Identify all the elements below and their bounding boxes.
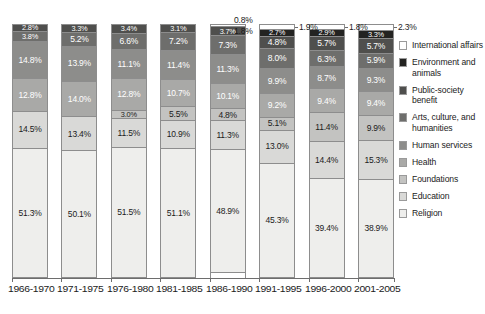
bar-segment[interactable]: 10.7% — [161, 79, 195, 106]
legend-swatch-icon — [399, 141, 407, 150]
bar-segment[interactable]: 48.9% — [211, 149, 245, 273]
legend-item[interactable]: Foundations — [399, 174, 485, 185]
bar-segment[interactable]: 4.8% — [260, 36, 294, 48]
bar-segment[interactable]: 6.3% — [310, 50, 344, 66]
bar-segment[interactable]: 11.3% — [211, 54, 245, 83]
segment-value-label: 10.7% — [167, 89, 190, 98]
legend-item[interactable]: Education — [399, 191, 485, 202]
bar-column[interactable]: 3.3%5.2%13.9%14.0%13.4%50.1% — [61, 24, 97, 278]
bar-segment[interactable]: 8.7% — [310, 66, 344, 88]
segment-value-label: 11.4% — [315, 123, 337, 132]
bar-segment[interactable]: 5.1% — [260, 117, 294, 130]
legend-item[interactable]: Arts, culture, and humanities — [399, 112, 485, 133]
callout-leader-line — [345, 27, 348, 28]
segment-value-label: 9.9% — [367, 124, 386, 133]
bar-segment[interactable]: 9.2% — [260, 93, 294, 116]
segment-value-label: 10.9% — [167, 130, 190, 139]
bar-segment[interactable]: 10.1% — [211, 83, 245, 109]
bar-segment[interactable]: 5.7% — [359, 38, 393, 52]
bar-column[interactable]: 2.8%3.8%14.8%12.8%14.5%51.3% — [12, 24, 48, 278]
bar-segment[interactable]: 14.8% — [13, 41, 47, 79]
bar-segment[interactable]: 38.9% — [359, 179, 393, 278]
bar-segment[interactable]: 3.4% — [112, 24, 146, 33]
bar-segment[interactable]: 7.2% — [161, 32, 195, 50]
bar-column[interactable]: 3.3%5.7%5.9%9.3%9.4%9.9%15.3%38.9% — [358, 24, 394, 278]
bar-column[interactable]: 3.1%7.2%11.4%10.7%5.5%10.9%51.1% — [160, 24, 196, 278]
bar-segment[interactable]: 11.4% — [310, 112, 344, 141]
bar-column[interactable]: 2.9%5.7%6.3%8.7%9.4%11.4%14.4%39.4% — [309, 24, 345, 278]
bar-segment[interactable]: 15.3% — [359, 140, 393, 179]
segment-value-label: 4.8% — [268, 38, 287, 47]
bar-segment[interactable]: 9.9% — [260, 68, 294, 93]
bar-segment[interactable]: 3.8% — [13, 31, 47, 41]
bar-segment[interactable]: 13.4% — [62, 116, 96, 150]
bar-segment[interactable]: 2.8% — [13, 24, 47, 31]
bar-segment[interactable]: 14.5% — [13, 111, 47, 148]
bar-segment[interactable]: 3.0% — [112, 110, 146, 118]
segment-value-label: 51.3% — [18, 209, 41, 218]
bar-segment[interactable]: 2.7% — [260, 29, 294, 36]
segment-value-label: 15.3% — [364, 156, 387, 165]
legend-item[interactable]: Environment and animals — [399, 57, 485, 78]
bar-segment[interactable]: 3.3% — [62, 24, 96, 32]
bar-segment[interactable]: 13.9% — [62, 46, 96, 81]
callout-value-label: 1.8% — [234, 26, 253, 36]
bar-segment[interactable]: 9.4% — [359, 91, 393, 115]
segment-value-label: 4.8% — [218, 111, 237, 120]
bar-segment[interactable]: 45.3% — [260, 163, 294, 278]
bar-segment[interactable]: 50.1% — [62, 150, 96, 277]
bar-stack: 3.3%5.2%13.9%14.0%13.4%50.1% — [61, 24, 97, 278]
bar-segment[interactable]: 7.3% — [211, 35, 245, 54]
bar-column[interactable]: 3.7%7.3%11.3%10.1%4.8%11.3%48.9% — [210, 24, 246, 278]
bar-segment[interactable]: 8.0% — [260, 48, 294, 68]
bar-segment[interactable]: 39.4% — [310, 178, 344, 278]
bar-segment[interactable]: 51.3% — [13, 148, 47, 278]
x-axis-label: 1976-1980 — [107, 284, 151, 294]
legend-item-label: Environment and animals — [412, 57, 485, 78]
bar-segment[interactable]: 5.7% — [310, 36, 344, 50]
x-axis-tick — [12, 278, 13, 282]
bar-segment[interactable]: 9.4% — [310, 88, 344, 112]
legend-item[interactable]: International affairs — [399, 40, 485, 51]
bar-segment[interactable]: 12.8% — [112, 78, 146, 111]
bar-segment[interactable]: 11.4% — [161, 50, 195, 79]
legend-item[interactable]: Public-society benefit — [399, 85, 485, 106]
segment-value-label: 11.1% — [118, 60, 140, 69]
segment-value-label: 3.3% — [71, 25, 87, 32]
legend-item[interactable]: Religion — [399, 208, 485, 219]
bar-segment[interactable]: 11.5% — [112, 118, 146, 147]
legend-item[interactable]: Human services — [399, 140, 485, 151]
bar-segment[interactable]: 12.8% — [13, 78, 47, 111]
bar-segment[interactable]: 9.3% — [359, 68, 393, 92]
segment-value-label: 45.3% — [266, 216, 289, 225]
bar-segment[interactable]: 14.0% — [62, 81, 96, 117]
bar-segment[interactable]: 51.1% — [161, 148, 195, 278]
bar-segment[interactable]: 9.9% — [359, 115, 393, 140]
x-axis-tick — [210, 278, 211, 282]
segment-value-label: 5.7% — [317, 39, 336, 48]
bar-segment[interactable]: 6.6% — [112, 33, 146, 50]
bar-segment[interactable]: 51.5% — [112, 147, 146, 278]
x-axis-tick — [309, 278, 310, 282]
bar-segment[interactable]: 3.1% — [161, 24, 195, 32]
bar-segment[interactable]: 4.8% — [211, 108, 245, 120]
bar-segment[interactable]: 11.3% — [211, 120, 245, 149]
bar-segment[interactable]: 11.1% — [112, 49, 146, 77]
bar-segment[interactable]: 14.4% — [310, 141, 344, 178]
segment-value-label: 51.1% — [167, 209, 190, 218]
bar-column[interactable]: 2.7%4.8%8.0%9.9%9.2%5.1%13.0%45.3% — [259, 24, 295, 278]
legend-swatch-icon — [399, 192, 407, 201]
legend-item-label: Human services — [412, 140, 472, 151]
legend-item-label: Health — [412, 157, 436, 168]
bar-segment[interactable]: 5.2% — [62, 32, 96, 45]
bar-segment[interactable]: 13.0% — [260, 130, 294, 163]
segment-value-label: 48.9% — [216, 207, 239, 216]
legend-item-label: Public-society benefit — [412, 85, 485, 106]
legend-item[interactable]: Health — [399, 157, 485, 168]
bar-column[interactable]: 3.4%6.6%11.1%12.8%3.0%11.5%51.5% — [111, 24, 147, 278]
segment-value-label: 5.2% — [70, 35, 89, 44]
x-axis-tick — [61, 278, 62, 282]
bar-segment[interactable]: 10.9% — [161, 120, 195, 148]
bar-segment[interactable]: 5.9% — [359, 53, 393, 68]
bar-segment[interactable]: 5.5% — [161, 106, 195, 120]
